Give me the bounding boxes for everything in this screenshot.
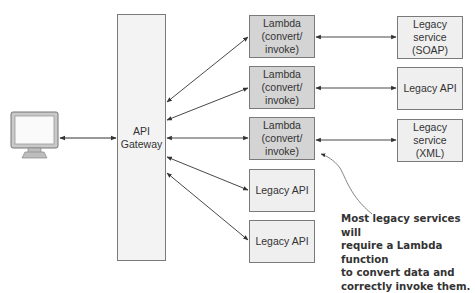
legacy-api-label: Legacy API	[255, 184, 308, 197]
gateway-legacy2-arrow	[167, 173, 248, 240]
api-gateway-label: API Gateway	[121, 125, 162, 151]
lambda-label: Lambda (convert/ invoke)	[262, 68, 303, 107]
lambda-box-1: Lambda (convert/ invoke)	[249, 15, 315, 58]
lambda-label: Lambda (convert/ invoke)	[262, 119, 303, 158]
annotation-pointer	[321, 154, 372, 214]
monitor-icon	[11, 112, 58, 158]
legacy-api-box-1: Legacy API	[249, 169, 315, 212]
legacy-xml-service-box: Legacy service (XML)	[397, 119, 463, 162]
lambda-box-3: Lambda (convert/ invoke)	[249, 117, 315, 160]
legacy-api-label: Legacy API	[255, 235, 308, 248]
gateway-legacy1-arrow	[167, 157, 248, 190]
legacy-xml-label: Legacy service (XML)	[413, 121, 447, 160]
legacy-api-right-label: Legacy API	[403, 82, 456, 95]
legacy-soap-service-box: Legacy service (SOAP)	[397, 16, 463, 59]
gateway-lambda1-arrow	[167, 37, 248, 102]
lambda-label: Lambda (convert/ invoke)	[262, 17, 303, 56]
legacy-api-box-2: Legacy API	[249, 220, 315, 263]
api-gateway-box: API Gateway	[117, 14, 166, 261]
legacy-api-right-box: Legacy API	[397, 67, 463, 110]
legacy-soap-label: Legacy service (SOAP)	[412, 18, 448, 57]
annotation-text: Most legacy services will require a Lamb…	[341, 212, 475, 293]
lambda-box-2: Lambda (convert/ invoke)	[249, 66, 315, 109]
